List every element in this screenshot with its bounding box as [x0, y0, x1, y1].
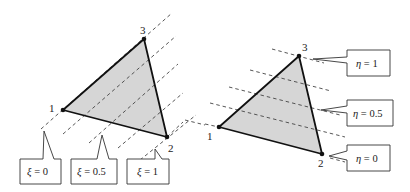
left-node-2-label: 2 — [168, 142, 174, 154]
left-triangle — [63, 39, 167, 137]
right-node-1-label: 1 — [207, 130, 213, 142]
right-node-2-label: 2 — [318, 157, 324, 169]
left-node-3-label: 3 — [140, 24, 146, 36]
callout-eta-0: η = 0 — [329, 145, 390, 171]
callout-eta-1: η = 1 — [313, 50, 390, 76]
callout-eta-0-value: 0 — [372, 153, 377, 164]
right-node-3 — [297, 54, 302, 59]
svg-text:ξ = 0: ξ = 0 — [27, 166, 48, 178]
left-node-2 — [165, 135, 170, 140]
right-node-3-label: 3 — [302, 41, 308, 53]
triangle-natural-coordinates-diagram: 1 2 3 ξ = 0 ξ = 0.5 ξ = 1 — [0, 0, 410, 192]
callout-eta-1-value: 1 — [372, 58, 377, 69]
svg-text:ξ = 0.5: ξ = 0.5 — [77, 166, 106, 178]
callout-xi-1: ξ = 1 — [127, 149, 169, 184]
svg-text:ξ = 1: ξ = 1 — [137, 166, 158, 178]
right-panel-dash-extend — [185, 120, 205, 125]
callout-xi-1-value: 1 — [153, 166, 158, 177]
callout-xi-05-value: 0.5 — [93, 166, 106, 177]
left-panel: 1 2 3 ξ = 0 ξ = 0.5 ξ = 1 — [20, 13, 205, 184]
left-node-1-label: 1 — [49, 102, 55, 114]
svg-text:η = 0.5: η = 0.5 — [353, 108, 383, 119]
right-node-1 — [217, 125, 222, 130]
callout-xi-0-value: 0 — [43, 166, 48, 177]
xi-1-extension — [167, 122, 183, 137]
right-triangle — [219, 56, 322, 154]
callout-xi-05: ξ = 0.5 — [71, 135, 117, 184]
callout-xi-0: ξ = 0 — [20, 131, 61, 184]
svg-text:η = 0: η = 0 — [356, 153, 378, 164]
right-node-2 — [320, 152, 325, 157]
right-panel: 1 2 3 η = 1 η = 0.5 η = 0 — [205, 41, 393, 171]
left-node-1 — [61, 108, 66, 113]
left-node-3 — [142, 37, 147, 42]
callout-eta-05-value: 0.5 — [369, 108, 382, 119]
svg-text:η = 1: η = 1 — [356, 58, 378, 69]
